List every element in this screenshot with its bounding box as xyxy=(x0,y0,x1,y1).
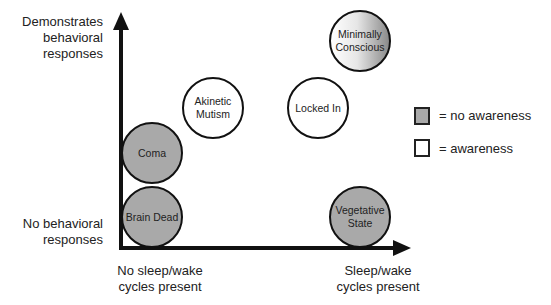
x-axis-right-label: Sleep/wake cycles present xyxy=(318,263,438,295)
y-axis-bottom-label: No behavioral responses xyxy=(0,216,103,248)
legend-swatch-awareness xyxy=(414,139,430,157)
state-label: Akinetic xyxy=(195,95,232,108)
label-line: No sleep/wake xyxy=(95,263,225,279)
state-label: Mutism xyxy=(195,108,232,121)
state-coma: Coma xyxy=(121,122,183,184)
label-line: responses xyxy=(0,232,103,248)
legend-label-awareness: = awareness xyxy=(439,141,513,156)
state-label: Brain Dead xyxy=(126,211,179,224)
label-line: cycles present xyxy=(318,279,438,295)
state-locked-in: Locked In xyxy=(287,77,349,139)
state-minimally-conscious: MinimallyConscious xyxy=(329,10,391,72)
state-akinetic-mutism: AkineticMutism xyxy=(182,77,244,139)
state-label: Coma xyxy=(138,147,166,160)
label-line: Demonstrates xyxy=(0,14,103,30)
label-line: behavioral xyxy=(0,30,103,46)
state-label: Conscious xyxy=(335,41,384,54)
state-brain-dead: Brain Dead xyxy=(121,186,183,248)
state-label: Locked In xyxy=(295,102,341,115)
legend-label-no-awareness: = no awareness xyxy=(439,108,531,123)
x-axis-arrow-icon xyxy=(393,240,411,256)
x-axis-left-label: No sleep/wake cycles present xyxy=(95,263,225,295)
label-line: responses xyxy=(0,46,103,62)
y-axis-arrow-icon xyxy=(113,12,129,30)
label-line: No behavioral xyxy=(0,216,103,232)
state-label: Vegetative xyxy=(335,204,384,217)
legend-swatch-no-awareness xyxy=(414,107,430,125)
label-line: Sleep/wake xyxy=(318,263,438,279)
state-vegetative-state: VegetativeState xyxy=(329,186,391,248)
state-label: State xyxy=(335,217,384,230)
label-line: cycles present xyxy=(95,279,225,295)
y-axis-top-label: Demonstrates behavioral responses xyxy=(0,14,103,62)
state-label: Minimally xyxy=(335,28,384,41)
